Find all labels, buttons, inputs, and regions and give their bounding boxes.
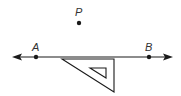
point-p-label: P (75, 6, 83, 18)
geometry-diagram: A B P (0, 0, 181, 96)
point-b-label: B (145, 41, 152, 53)
point-a-label: A (31, 41, 39, 53)
point-p: P (75, 6, 83, 25)
set-square-inner (90, 68, 106, 78)
set-square (62, 59, 114, 92)
